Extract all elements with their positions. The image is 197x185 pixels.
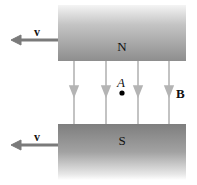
velocity-label-bottom: v: [34, 130, 40, 145]
field-b-label: B: [176, 86, 185, 102]
field-line-arrow-icon: [70, 61, 78, 124]
field-line-arrow-icon: [134, 61, 142, 124]
diagram-arrows: [0, 0, 197, 185]
field-line-arrow-icon: [165, 61, 173, 124]
point-a-label: A: [117, 75, 125, 91]
velocity-label-top: v: [34, 25, 40, 40]
point-a-dot: [119, 90, 124, 95]
field-line-arrow-icon: [102, 61, 110, 124]
